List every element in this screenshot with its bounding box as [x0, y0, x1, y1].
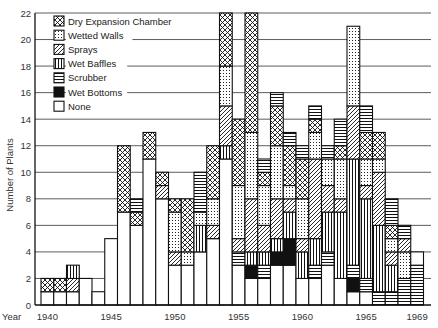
bar-segment-none: [194, 252, 207, 305]
legend-item-baffles: Wet Baffles: [54, 58, 127, 70]
bar-segment-scrubber: [309, 106, 322, 119]
bar-1944: [92, 292, 105, 305]
bar-segment-dry: [385, 225, 398, 238]
bar-segment-none: [296, 278, 309, 305]
bar-segment-none: [322, 265, 335, 305]
bar-segment-sprays: [245, 199, 258, 252]
bar-segment-bottoms: [347, 278, 360, 291]
bar-segment-none: [245, 278, 258, 305]
y-tick-label: 22: [20, 8, 31, 19]
bar-segment-scrubber: [322, 146, 335, 159]
bar-1962: [322, 146, 335, 305]
x-tick-label: 1955: [228, 311, 249, 322]
bar-segment-wetted: [232, 186, 245, 239]
bar-1956: [245, 13, 258, 305]
bar-segment-none: [271, 265, 284, 305]
y-tick-label: 6: [26, 220, 31, 231]
legend-label: Scrubber: [68, 72, 107, 83]
bar-segment-baffles: [271, 239, 284, 252]
bar-segment-scrubber: [194, 172, 207, 212]
bar-segment-sprays: [220, 106, 233, 146]
bar-1943: [79, 278, 92, 305]
bar-segment-baffles: [283, 212, 296, 239]
bar-segment-sprays: [347, 106, 360, 159]
bar-segment-sprays: [322, 186, 335, 213]
bar-segment-sprays: [360, 186, 373, 199]
bar-segment-dry: [181, 199, 194, 252]
bar-1961: [309, 106, 322, 305]
bar-1942: [67, 265, 80, 305]
y-axis-title: Number of Plants: [4, 138, 15, 212]
legend-label: Dry Expansion Chamber: [68, 16, 172, 27]
bar-segment-scrubber: [411, 265, 424, 305]
bar-segment-sprays: [283, 199, 296, 212]
legend-item-sprays: Sprays: [54, 43, 101, 55]
bar-segment-wetted: [309, 132, 322, 159]
bar-segment-wetted: [194, 212, 207, 225]
bar-segment-baffles: [309, 239, 322, 266]
bar-segment-dry: [309, 119, 322, 132]
bar-segment-scrubber: [258, 159, 271, 172]
x-axis-title: Year: [2, 311, 21, 322]
bar-segment-scrubber: [398, 278, 411, 305]
bar-segment-none: [347, 292, 360, 305]
bar-segment-none: [130, 225, 143, 305]
bar-segment-scrubber: [232, 252, 245, 265]
bar-segment-none: [41, 292, 54, 305]
y-tick-label: 14: [20, 114, 31, 125]
bar-segment-sprays: [398, 239, 411, 252]
bar-segment-none: [156, 199, 169, 305]
bar-segment-none: [105, 239, 118, 305]
bar-1958: [271, 93, 284, 305]
bar-segment-scrubber: [398, 225, 411, 238]
x-tick-label: 1965: [356, 311, 377, 322]
bar-segment-scrubber: [360, 278, 373, 291]
bar-segment-baffles: [385, 265, 398, 292]
bar-1964: [347, 26, 360, 305]
bar-segment-scrubber: [360, 106, 373, 133]
legend-swatch-dry: [54, 16, 64, 26]
bar-1946: [118, 146, 131, 305]
legend-swatch-none: [54, 101, 64, 111]
bar-segment-sprays: [271, 199, 284, 239]
bar-segment-none: [118, 212, 131, 305]
bar-1966: [373, 132, 386, 305]
bar-segment-baffles: [296, 252, 309, 279]
bar-segment-wetted: [385, 239, 398, 252]
bar-1949: [156, 172, 169, 305]
bar-segment-wetted: [398, 252, 411, 279]
bar-segment-baffles: [334, 212, 347, 278]
bar-segment-wetted: [169, 212, 182, 252]
bar-segment-dry: [296, 159, 309, 199]
bar-segment-none: [309, 278, 322, 305]
bar-segment-scrubber: [385, 292, 398, 305]
bar-segment-dry: [118, 146, 131, 212]
x-tick-label: 1940: [37, 311, 58, 322]
bar-segment-sprays: [67, 278, 80, 291]
bar-segment-dry: [245, 13, 258, 132]
x-tick-label: 1945: [101, 311, 122, 322]
bar-segment-scrubber: [130, 199, 143, 212]
bar-segment-wetted: [360, 159, 373, 186]
y-tick-label: 20: [20, 34, 31, 45]
bar-segment-scrubber: [309, 265, 322, 278]
bar-segment-scrubber: [385, 199, 398, 226]
bar-segment-dry: [334, 146, 347, 159]
stacked-bar-chart: 0246810121416182022194019451950195519601…: [0, 0, 438, 328]
legend-item-bottoms: Wet Bottoms: [54, 86, 127, 98]
bar-segment-dry: [258, 172, 271, 185]
bar-segment-none: [334, 278, 347, 305]
bar-segment-scrubber: [271, 93, 284, 106]
bar-1940: [41, 278, 54, 305]
bar-segment-dry: [156, 172, 169, 185]
bar-segment-none: [411, 252, 424, 265]
bar-segment-dry: [130, 212, 143, 225]
bar-segment-none: [79, 278, 92, 305]
bar-1959: [283, 132, 296, 305]
bar-segment-sprays: [169, 252, 182, 265]
bar-segment-none: [232, 265, 245, 305]
bar-segment-sprays: [258, 225, 271, 252]
x-tick-label: 1960: [292, 311, 313, 322]
bar-segment-baffles: [220, 146, 233, 159]
legend-swatch-wetted: [54, 30, 64, 40]
